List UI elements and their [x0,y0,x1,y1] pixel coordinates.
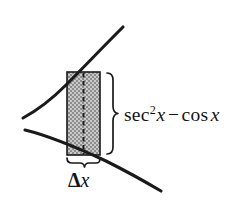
cos-variable-text: x [211,104,220,125]
sec-variable-text: x [157,104,166,125]
sec-function-text: sec [124,104,150,125]
width-brace [67,158,100,167]
width-expression-label: Δx [68,170,89,190]
cos-function-text: cos [182,104,209,125]
sec-exponent-text: 2 [150,103,156,117]
minus-operator-text: − [168,104,179,125]
delta-variable-text: x [81,169,90,191]
height-brace [107,73,118,154]
delta-symbol-text: Δ [68,169,81,191]
calculus-diagram-figure: sec2x−cosx Δx [0,0,241,218]
height-expression-label: sec2x−cosx [124,104,220,125]
